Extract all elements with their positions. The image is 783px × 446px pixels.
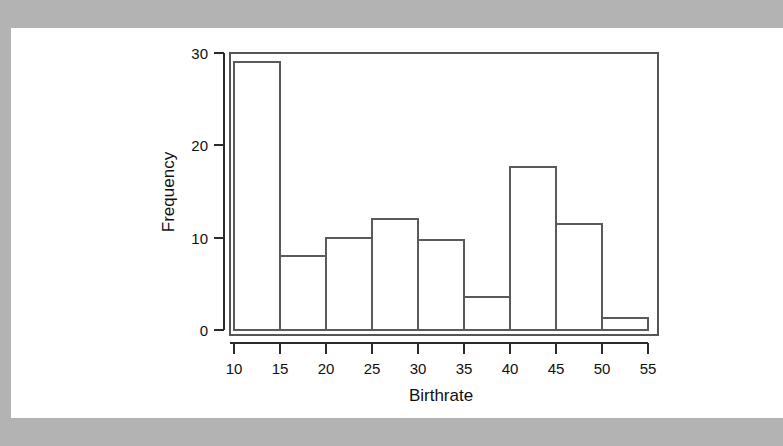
y-tick-label-10: 10 xyxy=(191,230,208,247)
x-tick-label-55: 55 xyxy=(640,360,657,377)
bars-group xyxy=(234,62,648,330)
x-tick-label-30: 30 xyxy=(410,360,427,377)
bar-35-40 xyxy=(464,297,510,330)
bar-50-55 xyxy=(602,318,648,330)
bar-10-15 xyxy=(234,62,280,330)
document-sheet: 30 20 10 0 xyxy=(11,28,783,418)
x-tick-label-25: 25 xyxy=(364,360,381,377)
bar-45-50 xyxy=(556,224,602,330)
y-tick-label-0: 0 xyxy=(200,322,208,339)
bar-15-20 xyxy=(280,256,326,330)
histogram-svg: 30 20 10 0 xyxy=(11,28,783,418)
bar-30-35 xyxy=(418,240,464,330)
y-axis: 30 20 10 0 xyxy=(191,45,224,339)
x-tick-label-40: 40 xyxy=(502,360,519,377)
x-tick-label-50: 50 xyxy=(594,360,611,377)
y-tick-label-30: 30 xyxy=(191,45,208,62)
y-axis-title: Frequency xyxy=(159,151,178,232)
screenshot-page: 30 20 10 0 xyxy=(0,0,783,446)
x-tick-label-45: 45 xyxy=(548,360,565,377)
bar-20-25 xyxy=(326,238,372,330)
x-tick-label-10: 10 xyxy=(226,360,243,377)
bar-25-30 xyxy=(372,219,418,330)
x-tick-label-20: 20 xyxy=(318,360,335,377)
y-tick-label-20: 20 xyxy=(191,137,208,154)
bar-40-45 xyxy=(510,167,556,330)
x-axis-title: Birthrate xyxy=(409,386,473,405)
x-tick-label-15: 15 xyxy=(272,360,289,377)
x-tick-label-35: 35 xyxy=(456,360,473,377)
x-axis: 10 15 20 25 30 35 40 45 50 55 xyxy=(226,343,657,377)
histogram-figure: 30 20 10 0 xyxy=(11,28,783,418)
